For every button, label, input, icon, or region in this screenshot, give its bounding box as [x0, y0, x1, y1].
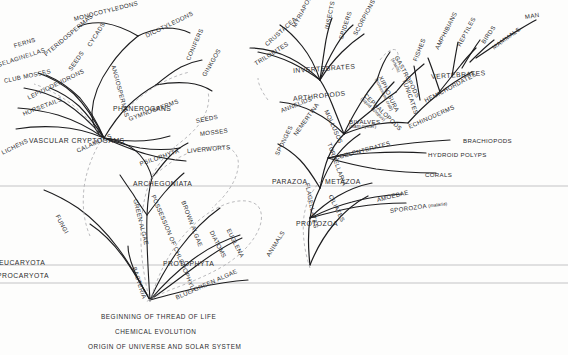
- label-eucaryota[interactable]: EUCARYOTA: [0, 259, 45, 266]
- label-bivalves[interactable]: BIVALVES (clam oyster): [349, 119, 380, 130]
- label-metazoa[interactable]: METAZOA: [325, 178, 361, 185]
- label-protophyta[interactable]: PROTOPHYTA: [163, 260, 214, 267]
- footer-beginning-of-thread-of-life: BEGINNING OF THREAD OF LIFE: [101, 313, 216, 320]
- footer-chemical-evolution: CHEMICAL EVOLUTION: [115, 328, 196, 335]
- label-corals[interactable]: CORALS: [425, 172, 452, 178]
- evolution-tree-diagram: MONOCOTYLEDONS DICOTYLEDONS PTERIDOSPERM…: [0, 0, 568, 355]
- label-parazoa[interactable]: PARAZOA: [272, 178, 307, 185]
- label-archegoniata[interactable]: ARCHEGONIATA: [133, 180, 192, 187]
- label-bivalves-note: (clam oyster): [349, 125, 380, 130]
- label-brachiopods[interactable]: BRACHIOPODS: [463, 138, 512, 144]
- label-hydroid-polyps[interactable]: HYDROID POLYPS: [428, 152, 487, 158]
- label-procaryota[interactable]: PROCARYOTA: [0, 272, 49, 279]
- footer-origin-of-universe: ORIGIN OF UNIVERSE AND SOLAR SYSTEM: [88, 343, 241, 350]
- label-protozoa[interactable]: PROTOZOA: [296, 220, 338, 227]
